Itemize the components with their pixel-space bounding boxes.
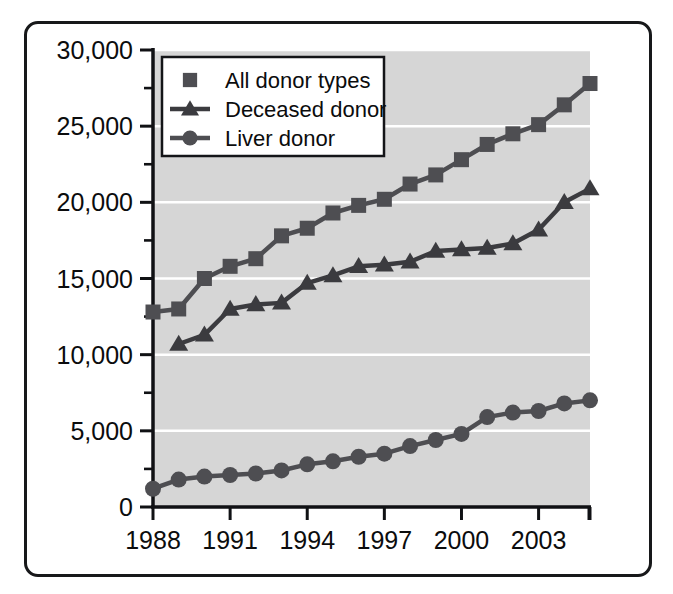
series-marker-circle: [351, 449, 367, 465]
series-marker-square: [223, 259, 238, 274]
series-marker-square: [146, 305, 161, 320]
series-marker-square: [531, 117, 546, 132]
y-axis-tick-label: 5,000: [70, 417, 133, 445]
series-marker-circle: [171, 472, 187, 488]
series-marker-circle: [582, 392, 598, 408]
series-marker-circle: [325, 453, 341, 469]
series-marker-square: [377, 192, 392, 207]
series-marker-circle: [182, 130, 197, 145]
series-marker-circle: [428, 432, 444, 448]
y-axis-tick-label: 25,000: [57, 112, 133, 140]
series-marker-circle: [453, 426, 469, 442]
y-axis-tick-label: 30,000: [57, 36, 133, 64]
series-marker-square: [454, 152, 469, 167]
x-axis-tick-label: 1988: [125, 526, 181, 554]
series-marker-circle: [531, 403, 547, 419]
legend-entry-label: Liver donor: [225, 126, 335, 151]
y-axis-tick-label: 10,000: [57, 341, 133, 369]
chart-legend: All donor typesDeceased donorLiver donor: [162, 57, 386, 156]
series-marker-square: [325, 205, 340, 220]
series-marker-circle: [248, 465, 264, 481]
series-marker-square: [428, 167, 443, 182]
y-axis-ticks-group: [140, 50, 153, 507]
series-marker-square: [403, 177, 418, 192]
legend-entry-label: Deceased donor: [225, 97, 386, 122]
x-axis-tick-labels-group: 198819911994199720002003: [125, 526, 566, 554]
x-axis-tick-label: 2000: [434, 526, 490, 554]
series-marker-square: [583, 76, 598, 91]
series-marker-circle: [376, 446, 392, 462]
series-marker-square: [171, 301, 186, 316]
series-marker-circle: [299, 456, 315, 472]
y-axis-tick-label: 0: [119, 493, 133, 521]
series-marker-square: [274, 228, 289, 243]
series-marker-circle: [145, 481, 161, 497]
series-marker-square: [505, 126, 520, 141]
series-marker-circle: [505, 405, 521, 421]
x-axis-tick-label: 1991: [202, 526, 258, 554]
series-marker-circle: [402, 438, 418, 454]
x-axis-tick-label: 1997: [357, 526, 413, 554]
series-marker-circle: [196, 469, 212, 485]
x-axis-ticks-group: [153, 507, 590, 520]
series-marker-circle: [556, 395, 572, 411]
series-marker-square: [557, 97, 572, 112]
series-marker-square: [480, 137, 495, 152]
chart-figure: 05,00010,00015,00020,00025,00030,000 198…: [0, 0, 673, 594]
series-marker-square: [351, 198, 366, 213]
series-marker-square: [183, 73, 197, 87]
series-marker-circle: [222, 467, 238, 483]
series-marker-square: [300, 221, 315, 236]
x-axis-tick-label: 2003: [511, 526, 567, 554]
x-axis-tick-label: 1994: [279, 526, 335, 554]
y-axis-tick-labels-group: 05,00010,00015,00020,00025,00030,000: [57, 36, 133, 521]
series-marker-circle: [274, 462, 290, 478]
y-axis-tick-label: 15,000: [57, 265, 133, 293]
legend-entry-label: All donor types: [225, 68, 371, 93]
y-axis-tick-label: 20,000: [57, 188, 133, 216]
line-chart: 05,00010,00015,00020,00025,00030,000 198…: [0, 0, 673, 594]
series-marker-square: [197, 271, 212, 286]
series-marker-square: [248, 251, 263, 266]
series-marker-circle: [479, 409, 495, 425]
